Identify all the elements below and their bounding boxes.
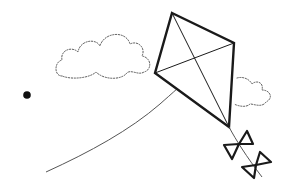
tail-bow-icon <box>224 131 253 159</box>
cloud-right-icon <box>234 77 270 106</box>
cloud-left-icon <box>56 34 150 78</box>
kite-icon <box>155 13 234 127</box>
dot-icon <box>23 91 31 99</box>
kite-scene-svg <box>0 0 286 193</box>
kite-illustration <box>0 0 286 193</box>
